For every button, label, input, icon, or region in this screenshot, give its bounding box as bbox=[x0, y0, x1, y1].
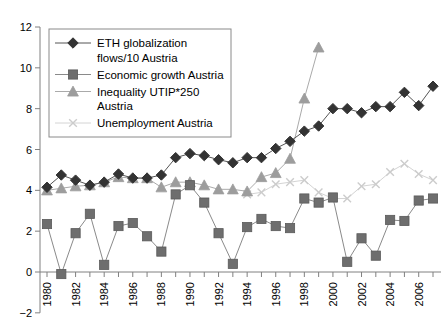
legend-label-0: ETH globalization bbox=[97, 37, 187, 49]
marker-square bbox=[57, 269, 66, 278]
data-point-square bbox=[85, 209, 94, 218]
series-1 bbox=[42, 181, 437, 279]
y-tick-label: 12 bbox=[20, 21, 32, 33]
marker-diamond bbox=[199, 150, 209, 160]
data-point-diamond bbox=[242, 152, 252, 162]
marker-triangle bbox=[299, 93, 310, 103]
y-tick-label: 4 bbox=[26, 184, 32, 196]
marker-diamond bbox=[242, 152, 252, 162]
data-point-square bbox=[200, 198, 209, 207]
data-point-square bbox=[371, 251, 380, 260]
data-point-square bbox=[114, 221, 123, 230]
y-tick-label: −2 bbox=[19, 307, 32, 319]
marker-square bbox=[328, 193, 337, 202]
marker-square bbox=[68, 70, 77, 79]
x-tick-label: 1988 bbox=[155, 282, 167, 306]
marker-square bbox=[171, 190, 180, 199]
marker-square bbox=[400, 216, 409, 225]
series-3 bbox=[243, 160, 436, 202]
data-point-diamond bbox=[271, 143, 281, 153]
data-point-square bbox=[400, 216, 409, 225]
x-tick-label: 2004 bbox=[384, 282, 396, 306]
data-point-diamond bbox=[70, 175, 80, 185]
marker-square bbox=[100, 260, 109, 269]
data-point-diamond bbox=[213, 155, 223, 165]
marker-square bbox=[200, 198, 209, 207]
marker-square bbox=[314, 198, 323, 207]
marker-diamond bbox=[299, 126, 309, 136]
marker-square bbox=[271, 221, 280, 230]
marker-square bbox=[357, 234, 366, 243]
marker-square bbox=[285, 224, 294, 233]
chart-container: −202468101219801982198419861988199019921… bbox=[0, 0, 443, 332]
data-point-triangle bbox=[256, 172, 267, 182]
marker-diamond bbox=[70, 175, 80, 185]
data-point-square bbox=[386, 215, 395, 224]
y-tick-label: 6 bbox=[26, 144, 32, 156]
data-point-square bbox=[42, 219, 51, 228]
data-point-x bbox=[429, 176, 437, 184]
x-tick-label: 2000 bbox=[327, 282, 339, 306]
marker-diamond bbox=[342, 103, 352, 113]
data-point-diamond bbox=[342, 103, 352, 113]
marker-diamond bbox=[428, 81, 438, 91]
data-point-triangle bbox=[156, 182, 167, 192]
marker-square bbox=[371, 251, 380, 260]
legend-label-3: Unemployment Austria bbox=[97, 117, 213, 129]
data-point-x bbox=[386, 168, 394, 176]
data-point-diamond bbox=[228, 158, 238, 168]
marker-square bbox=[343, 257, 352, 266]
marker-square bbox=[128, 218, 137, 227]
marker-triangle bbox=[156, 182, 167, 192]
data-point-diamond bbox=[356, 108, 366, 118]
marker-square bbox=[214, 229, 223, 238]
data-point-x bbox=[315, 189, 323, 197]
x-tick-label: 1990 bbox=[184, 282, 196, 306]
marker-square bbox=[42, 219, 51, 228]
data-point-diamond bbox=[428, 81, 438, 91]
data-point-square bbox=[228, 259, 237, 268]
marker-square bbox=[243, 222, 252, 231]
data-point-triangle bbox=[285, 153, 296, 163]
marker-square bbox=[300, 194, 309, 203]
data-point-square bbox=[300, 194, 309, 203]
legend-label-1: Economic growth Austria bbox=[97, 69, 224, 81]
data-point-x bbox=[415, 170, 423, 178]
x-tick-label: 1994 bbox=[241, 282, 253, 306]
data-point-square bbox=[343, 257, 352, 266]
legend-label-2: Austria bbox=[97, 100, 133, 112]
data-point-square bbox=[243, 222, 252, 231]
marker-square bbox=[228, 259, 237, 268]
data-point-triangle bbox=[313, 42, 324, 52]
marker-diamond bbox=[371, 101, 381, 111]
marker-square bbox=[428, 194, 437, 203]
y-tick-label: 10 bbox=[20, 62, 32, 74]
data-point-square bbox=[57, 269, 66, 278]
marker-square bbox=[114, 221, 123, 230]
marker-triangle bbox=[285, 153, 296, 163]
data-point-square bbox=[314, 198, 323, 207]
data-point-diamond bbox=[299, 126, 309, 136]
marker-square bbox=[185, 181, 194, 190]
data-point-diamond bbox=[371, 101, 381, 111]
marker-diamond bbox=[228, 158, 238, 168]
y-tick-label: 0 bbox=[26, 266, 32, 278]
data-point-square bbox=[157, 247, 166, 256]
data-point-square bbox=[71, 229, 80, 238]
data-point-diamond bbox=[199, 150, 209, 160]
x-axis-ticks: 1980198219841986198819901992199419961998… bbox=[41, 272, 433, 306]
marker-square bbox=[414, 196, 423, 205]
marker-square bbox=[386, 215, 395, 224]
marker-diamond bbox=[213, 155, 223, 165]
data-point-square bbox=[328, 193, 337, 202]
marker-diamond bbox=[356, 108, 366, 118]
legend-label-0: flows/10 Austria bbox=[97, 52, 178, 64]
data-point-square bbox=[257, 214, 266, 223]
marker-diamond bbox=[271, 143, 281, 153]
data-point-square bbox=[128, 218, 137, 227]
marker-triangle bbox=[256, 172, 267, 182]
marker-square bbox=[142, 232, 151, 241]
x-tick-label: 1996 bbox=[270, 282, 282, 306]
marker-square bbox=[157, 247, 166, 256]
legend-label-2: Inequality UTIP*250 bbox=[97, 86, 199, 98]
